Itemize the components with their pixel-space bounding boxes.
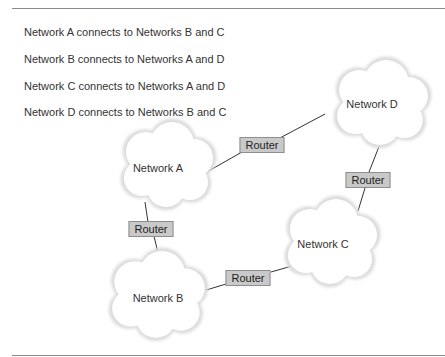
router-a-d: Router <box>240 137 285 153</box>
network-d-label: Network D <box>346 98 397 110</box>
router-a-b: Router <box>129 221 174 237</box>
router-d-c: Router <box>346 172 391 188</box>
router-b-c: Router <box>226 270 271 286</box>
network-a-label: Network A <box>133 162 183 174</box>
bottom-divider <box>12 355 445 356</box>
network-c-label: Network C <box>297 238 348 250</box>
network-b-label: Network B <box>133 292 184 304</box>
